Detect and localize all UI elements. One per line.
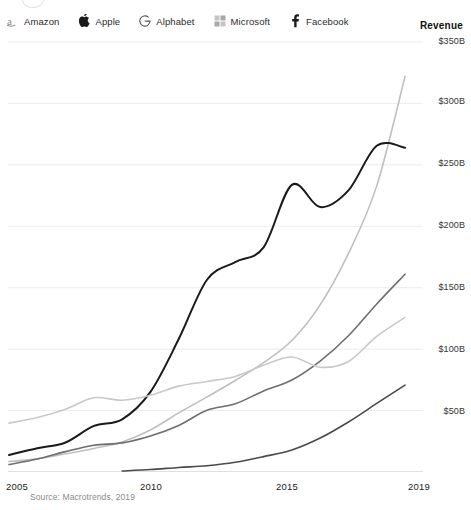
legend-label-amazon: Amazon [24,16,59,27]
x-axis: 2005 2010 2015 2019 [0,472,471,492]
xtick-label-2019: 2019 [408,481,430,492]
legend-item-alphabet[interactable]: Alphabet [138,14,194,28]
plot-area [8,34,423,472]
series-line-alphabet [9,274,405,464]
legend-label-facebook: Facebook [306,16,349,27]
svg-text:a: a [7,15,12,27]
google-g-logo-icon [138,14,152,28]
facebook-f-logo-icon [288,14,302,28]
legend-item-amazon[interactable]: a Amazon [6,14,59,28]
plot-svg [8,34,423,472]
chart-legend: a Amazon Apple Alphabet [0,8,471,34]
legend-item-facebook[interactable]: Facebook [288,14,349,28]
ytick-label-200: $200B [438,220,465,230]
legend-item-microsoft[interactable]: Microsoft [213,14,270,28]
xtick-label-2005: 2005 [6,481,28,492]
legend-item-apple[interactable]: Apple [77,14,120,28]
ytick-label-150: $150B [438,282,465,292]
legend-label-apple: Apple [95,16,120,27]
source-caption: Source: Macrotrends, 2019 [30,492,135,502]
corner-artifact [22,0,44,8]
legend-label-alphabet: Alphabet [156,16,194,27]
series-lines [9,76,405,471]
ytick-label-250: $250B [438,158,465,168]
series-line-facebook [122,385,405,471]
ytick-label-350: $350B [438,36,465,46]
series-line-amazon [9,76,405,461]
legend-label-microsoft: Microsoft [231,16,270,27]
revenue-axis-title: Revenue [420,20,463,31]
series-line-microsoft [9,317,405,423]
microsoft-logo-icon [213,14,227,28]
apple-logo-icon [77,14,91,28]
xtick-label-2010: 2010 [140,481,162,492]
revenue-line-chart: $350B $300B $250B $200B $150B $100B $50B [0,34,471,472]
amazon-logo-icon: a [6,14,20,28]
ytick-label-100: $100B [438,344,465,354]
ytick-label-300: $300B [438,96,465,106]
xtick-label-2015: 2015 [276,481,298,492]
ytick-label-50: $50B [444,406,465,416]
